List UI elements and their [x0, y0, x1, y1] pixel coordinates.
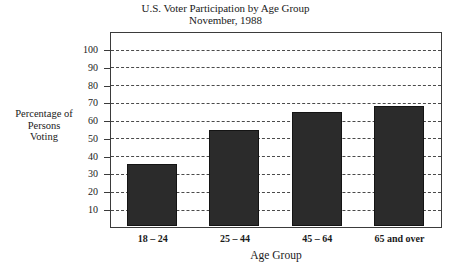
y-axis-tick-mark [104, 192, 110, 193]
gridline [111, 103, 441, 104]
bar [209, 130, 259, 226]
chart-title-line-2: November, 1988 [0, 15, 451, 27]
y-axis-tick-mark [104, 157, 110, 158]
y-axis-tick-mark [104, 68, 110, 69]
y-axis-tick-label: 70 [72, 98, 98, 108]
y-axis-tick-label: 30 [72, 169, 98, 179]
y-axis-tick-mark [104, 121, 110, 122]
bar [127, 164, 177, 226]
y-axis-tick-label: 60 [72, 116, 98, 126]
gridline [111, 50, 441, 51]
y-axis-tick-label: 100 [72, 45, 98, 55]
y-axis-tick-mark [104, 86, 110, 87]
gridline [111, 67, 441, 68]
y-axis-tick-label: 40 [72, 152, 98, 162]
plot-inner [111, 33, 441, 227]
y-axis-tick-mark [104, 103, 110, 104]
x-axis-tick-label: 65 and over [349, 233, 449, 244]
chart-title-line-1: U.S. Voter Participation by Age Group [0, 3, 451, 15]
gridline [111, 85, 441, 86]
y-axis-tick-mark [104, 210, 110, 211]
y-axis-tick-mark [104, 139, 110, 140]
y-axis-tick-label: 10 [72, 205, 98, 215]
bar [374, 106, 424, 227]
x-axis-label: Age Group [110, 249, 442, 262]
y-axis-tick-label: 50 [72, 134, 98, 144]
y-axis-tick-label: 20 [72, 187, 98, 197]
y-axis-tick-mark [104, 174, 110, 175]
chart-title: U.S. Voter Participation by Age Group No… [0, 3, 451, 26]
bar [292, 112, 342, 226]
y-axis-tick-mark [104, 50, 110, 51]
y-axis-tick-label: 80 [72, 81, 98, 91]
y-axis-tick-label: 90 [72, 63, 98, 73]
plot-area [110, 32, 442, 228]
